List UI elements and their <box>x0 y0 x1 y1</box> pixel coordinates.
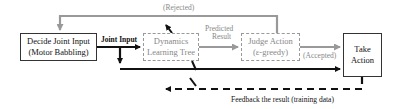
feedback-arrow <box>166 77 362 89</box>
predicted-label-2: Result <box>212 32 231 41</box>
feedback-label: Feedback the result (training data) <box>231 95 334 104</box>
accepted-label: (Accepted) <box>303 51 336 60</box>
decide-line1: Decide Joint Input <box>27 36 90 47</box>
rejected-arrow <box>60 16 277 33</box>
dynamics-line1: Dynamics <box>147 36 195 47</box>
judge-line2: (ε-greedy) <box>248 47 293 58</box>
judge-action-node: Judge Action(ε-greedy) <box>241 33 300 61</box>
take-line2: Action <box>351 55 374 66</box>
take-line1: Take <box>351 44 374 55</box>
joint-input-label: Joint Input <box>101 35 137 44</box>
decide-line2: (Motor Babbling) <box>27 47 90 58</box>
decide-joint-input-node: Decide Joint Input(Motor Babbling) <box>20 33 97 61</box>
dynamics-up-arrow <box>166 25 172 33</box>
judge-line1: Judge Action <box>248 36 293 47</box>
take-action-node: TakeAction <box>343 33 382 77</box>
dynamics-learning-tree-node: DynamicsLearning Tree <box>143 33 199 61</box>
dynamics-line2: Learning Tree <box>147 47 195 58</box>
rejected-label: (Rejected) <box>163 3 194 12</box>
